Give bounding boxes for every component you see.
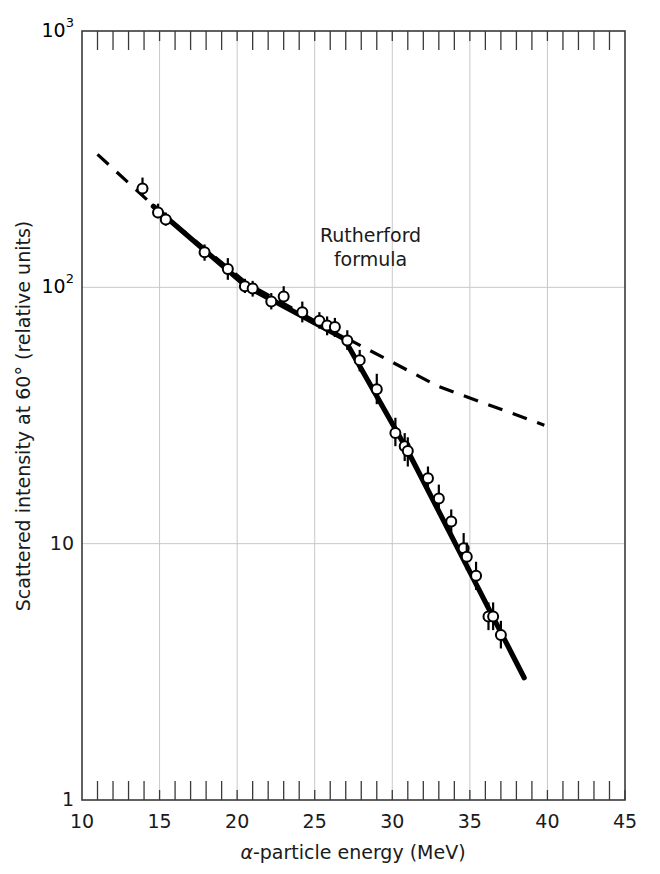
x-tick-label-15: 15 [147, 810, 171, 832]
y-axis-title: Scattered intensity at 60° (relative uni… [12, 221, 34, 611]
marker-open-circle [434, 494, 444, 504]
x-tick-label-25: 25 [303, 810, 327, 832]
x-tick-label-35: 35 [458, 810, 482, 832]
rutherford-annotation-line1: Rutherford [320, 224, 421, 246]
x-axis-tick-labels: 1015202530354045 [70, 810, 637, 832]
marker-open-circle [279, 292, 289, 302]
marker-open-circle [248, 283, 258, 293]
marker-open-circle [161, 214, 171, 224]
scattered-intensity-figure: Rutherford formula 1015202530354045 1 10… [0, 0, 660, 874]
marker-open-circle [403, 446, 413, 456]
marker-open-circle [355, 355, 365, 365]
marker-open-circle [342, 336, 352, 346]
y-tick-100-base: 10 [42, 275, 66, 297]
marker-open-circle [423, 473, 433, 483]
marker-open-circle [462, 552, 472, 562]
marker-open-circle [390, 428, 400, 438]
marker-open-circle [471, 571, 481, 581]
marker-open-circle [496, 630, 506, 640]
marker-open-circle [488, 611, 498, 621]
x-tick-label-45: 45 [613, 810, 637, 832]
marker-open-circle [297, 307, 307, 317]
plot-background [82, 31, 625, 800]
y-tick-label-100: 102 [42, 271, 74, 297]
x-tick-label-10: 10 [70, 810, 94, 832]
marker-open-circle [266, 297, 276, 307]
x-tick-label-30: 30 [380, 810, 404, 832]
y-tick-100-exponent: 2 [66, 271, 74, 286]
marker-open-circle [200, 247, 210, 257]
marker-open-circle [223, 264, 233, 274]
chart-canvas: Rutherford formula 1015202530354045 1 10… [0, 0, 660, 874]
x-axis-title-rest: -particle energy (MeV) [253, 841, 466, 863]
x-tick-label-40: 40 [535, 810, 559, 832]
y-tick-1000-base: 10 [42, 19, 66, 41]
y-tick-label-1000: 103 [42, 15, 74, 41]
marker-open-circle [138, 183, 148, 193]
x-axis-alpha-symbol: α [240, 841, 253, 863]
y-tick-label-10: 10 [50, 532, 74, 554]
y-tick-1000-exponent: 3 [66, 15, 74, 30]
rutherford-annotation-line2: formula [334, 248, 407, 270]
marker-open-circle [372, 384, 382, 394]
marker-open-circle [330, 322, 340, 332]
marker-open-circle [446, 517, 456, 527]
y-tick-label-1: 1 [62, 788, 74, 810]
x-axis-title: α-particle energy (MeV) [240, 841, 465, 863]
x-tick-label-20: 20 [225, 810, 249, 832]
